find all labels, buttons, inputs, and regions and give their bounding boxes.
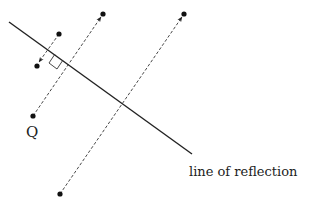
label-q: Q [26,123,38,141]
point-top-middle [100,11,105,16]
reflection-diagram: Q line of reflection [0,0,310,204]
point-top-left [56,31,61,36]
point-top-right [181,11,186,16]
dashed-arrow-q-to-image [33,17,101,116]
label-line-of-reflection: line of reflection [189,164,298,179]
point-bottom [57,191,62,196]
dashed-arrow-short [39,34,59,62]
point-reflected-small [34,63,39,68]
point-q [30,113,35,118]
dashed-arrow-long [60,17,182,194]
